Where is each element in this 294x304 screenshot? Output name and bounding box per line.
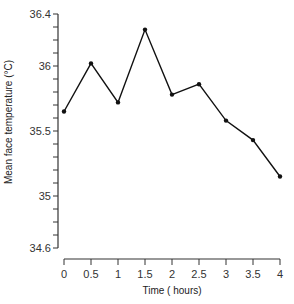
x-tick-label: 4: [277, 268, 283, 280]
line-chart: 34.63535.53636.4 00.511.522.533.54 Mean …: [0, 0, 294, 304]
x-axis: 00.511.522.533.54: [61, 259, 283, 280]
y-tick-label: 35: [39, 190, 51, 202]
data-point-marker: [251, 138, 255, 142]
x-tick-label: 2: [169, 268, 175, 280]
data-point-marker: [143, 27, 147, 31]
y-axis: 34.63535.53636.4: [30, 8, 58, 254]
x-tick-label: 0.5: [83, 268, 98, 280]
data-series: [62, 27, 282, 178]
data-point-marker: [197, 82, 201, 86]
x-tick-label: 1.5: [137, 268, 152, 280]
data-point-marker: [116, 100, 120, 104]
y-axis-title: Mean face temperature (°C): [3, 60, 14, 184]
x-axis-title: Time ( hours): [142, 285, 201, 296]
x-tick-label: 3.5: [245, 268, 260, 280]
x-tick-label: 0: [61, 268, 67, 280]
x-tick-label: 2.5: [191, 268, 206, 280]
data-point-marker: [170, 92, 174, 96]
data-point-marker: [89, 61, 93, 65]
data-point-marker: [278, 174, 282, 178]
y-tick-label: 34.6: [30, 242, 51, 254]
y-tick-label: 36.4: [30, 8, 51, 20]
series-line: [64, 30, 280, 177]
data-point-marker: [62, 109, 66, 113]
y-tick-label: 36: [39, 60, 51, 72]
x-tick-label: 3: [223, 268, 229, 280]
data-point-marker: [224, 118, 228, 122]
y-tick-label: 35.5: [30, 125, 51, 137]
x-tick-label: 1: [115, 268, 121, 280]
